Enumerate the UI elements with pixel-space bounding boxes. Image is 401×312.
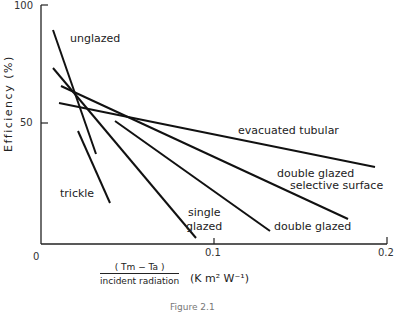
label-single-line1: single [188, 206, 221, 219]
label-single-line2: glazed [186, 220, 222, 233]
figure-caption: Figure 2.1 [170, 302, 215, 312]
label-evacuated-tubular: evacuated tubular [238, 124, 339, 137]
x-axis-units: (K m² W⁻¹) [190, 272, 249, 285]
x-axis-denominator: incident radiation [100, 274, 179, 286]
label-dgs-line2: selective surface [290, 179, 383, 192]
label-double-glazed: double glazed [274, 220, 351, 233]
x-axis-numerator: ( Tm − Ta ) [100, 262, 179, 274]
label-unglazed: unglazed [70, 32, 120, 45]
origin-label: 0 [33, 251, 39, 262]
x-axis-label-fraction: ( Tm − Ta ) incident radiation [100, 262, 179, 286]
y-axis-label: Efficiency (%) [2, 55, 15, 152]
label-trickle: trickle [60, 187, 94, 200]
series-single-glazed [53, 68, 196, 238]
y-tick-label-100: 100 [14, 0, 33, 11]
x-tick-label-0.2: 0.2 [378, 247, 394, 258]
x-tick-label-0.1: 0.1 [205, 247, 221, 258]
y-tick-label-50: 50 [20, 117, 33, 128]
